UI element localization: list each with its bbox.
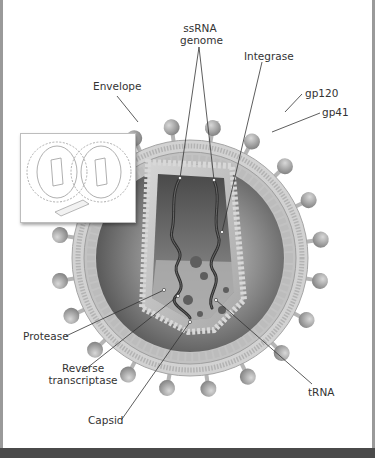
inset-virion-cross-section bbox=[20, 133, 136, 223]
capsid-core bbox=[142, 162, 244, 332]
label-gp120: gp120 bbox=[305, 87, 338, 99]
label-protease: Protease bbox=[23, 330, 69, 342]
bottom-bar bbox=[0, 448, 375, 458]
label-gp41: gp41 bbox=[322, 106, 349, 118]
label-reverse-transcriptase: Reverse transcriptase bbox=[46, 362, 120, 386]
inset-scale-bar bbox=[55, 200, 89, 216]
label-reverse-line2: transcriptase bbox=[46, 374, 120, 386]
label-ssrna-genome: ssRNA genome bbox=[180, 22, 220, 46]
label-integrase: Integrase bbox=[244, 50, 294, 62]
label-ssrna-line2: genome bbox=[180, 34, 220, 46]
inset-drawing bbox=[21, 134, 135, 222]
label-envelope: Envelope bbox=[93, 80, 141, 92]
label-trna: tRNA bbox=[308, 386, 334, 398]
label-ssrna-line1: ssRNA bbox=[180, 22, 220, 34]
label-reverse-line1: Reverse bbox=[46, 362, 120, 374]
label-capsid: Capsid bbox=[88, 414, 123, 426]
